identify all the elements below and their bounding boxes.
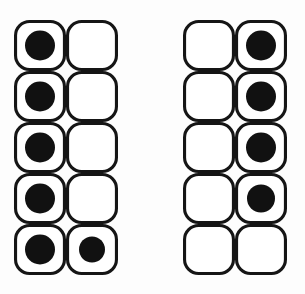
- grid-cell[interactable]: [68, 22, 117, 70]
- grid-cell[interactable]: [68, 73, 117, 121]
- cell-dot: [247, 185, 275, 213]
- grid-cell[interactable]: [237, 226, 286, 274]
- cell-dot: [25, 133, 55, 163]
- cell-dot: [25, 31, 55, 61]
- cell-dot: [79, 237, 105, 263]
- grid-cell[interactable]: [185, 22, 234, 70]
- cell-dot: [246, 31, 276, 61]
- cell-dot: [246, 133, 276, 163]
- cell-dot: [25, 184, 55, 214]
- dot-grid-figure: [0, 0, 305, 294]
- cell-dot: [25, 82, 55, 112]
- grid-cell[interactable]: [68, 175, 117, 223]
- dot-grid-canvas: [0, 0, 305, 294]
- grid-cell[interactable]: [68, 124, 117, 172]
- grid-cell[interactable]: [185, 175, 234, 223]
- grid-cell[interactable]: [185, 73, 234, 121]
- grid-cell[interactable]: [185, 124, 234, 172]
- cell-dot: [246, 82, 276, 112]
- grid-cell[interactable]: [185, 226, 234, 274]
- cell-dot: [25, 235, 55, 265]
